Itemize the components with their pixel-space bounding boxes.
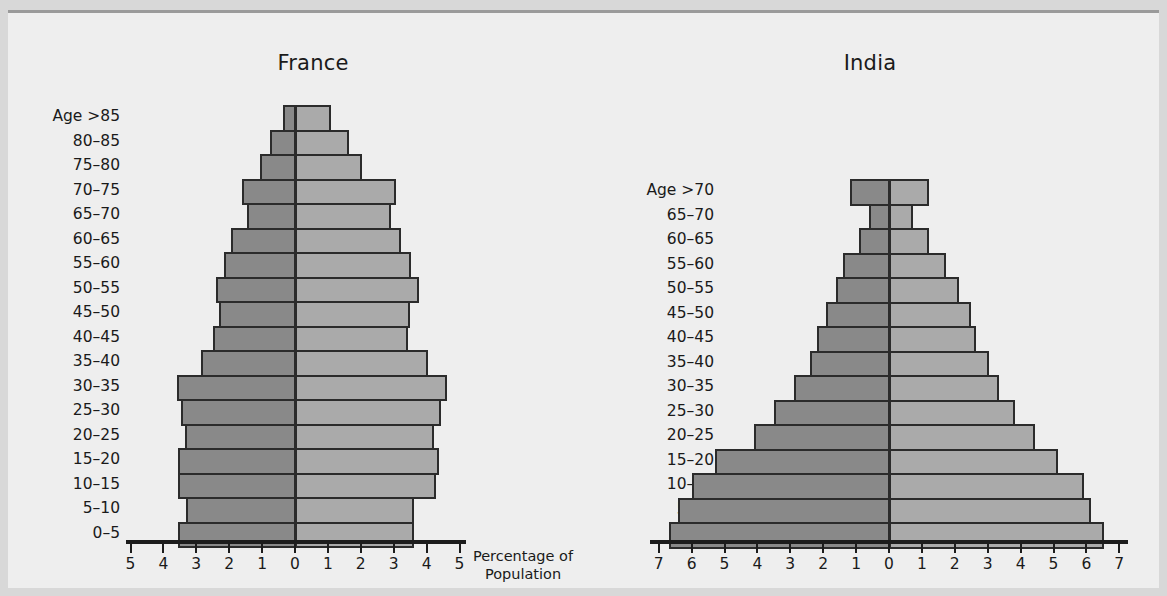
x-axis-tick-label: 4 [1011,557,1031,573]
axis-baseline [126,540,466,544]
age-band-label: 55–60 [528,257,714,273]
age-band-label: 50–55 [528,281,714,297]
x-axis-tick [426,544,428,553]
bar-female [295,130,349,157]
x-axis-tick-label: 5 [1044,557,1064,573]
age-band-label: 20–25 [528,428,714,444]
x-axis-tick-label: 3 [780,557,800,573]
x-axis-tick [228,544,230,553]
bar-female [889,449,1058,476]
age-band-label: 5–10 [8,501,120,517]
age-band-label: 20–25 [8,428,120,444]
bar-female [295,448,439,475]
bar-female [295,473,436,500]
age-band-label: 0–5 [8,526,120,542]
bar-male [859,228,890,255]
age-band-label: 10–15 [528,477,714,493]
bar-male [794,375,890,402]
bar-female [295,497,414,524]
chart-panel-india: India Age >7065–7060–6555–6050–5545–5040… [528,13,1159,588]
age-band-label: 35–40 [8,354,120,370]
x-axis-tick-label: 7 [649,557,669,573]
x-axis-tick [195,544,197,553]
bar-female [295,105,331,132]
bar-male [186,497,296,524]
bar-male [247,203,296,230]
age-band-label: 10–15 [8,477,120,493]
bar-female [889,424,1035,451]
x-axis-tick [162,544,164,553]
x-axis-tick [327,544,329,553]
bar-female [889,179,929,206]
bar-female [889,473,1084,500]
age-band-label: Age >85 [8,109,120,125]
x-axis-tick [756,544,758,553]
x-axis-tick [921,544,923,553]
bar-female [889,351,989,378]
bar-male [869,204,890,231]
bar-male [774,400,890,427]
age-band-label: 60–65 [8,232,120,248]
x-axis-tick-label: 4 [747,557,767,573]
bar-female [295,350,428,377]
bar-female [889,375,999,402]
age-band-label: 70–75 [8,183,120,199]
chart-panel-france: France Age >8580–8575–8070–7565–7060–655… [8,13,528,588]
bar-male [178,473,296,500]
age-band-label: 65–70 [528,208,714,224]
x-axis-tick-label: 3 [978,557,998,573]
x-axis-tick [1020,544,1022,553]
age-band-label: 15–20 [528,453,714,469]
x-axis-tick [130,544,132,553]
bar-male [850,179,890,206]
x-axis-tick-label: 1 [912,557,932,573]
bar-male [270,130,296,157]
bar-male [836,277,890,304]
bar-male [219,301,296,328]
bar-male [224,252,296,279]
bar-male [754,424,890,451]
x-axis-tick-label: 0 [879,557,899,573]
age-band-label: Age >70 [528,183,714,199]
bar-male [216,277,296,304]
x-axis-tick [789,544,791,553]
bar-male [678,498,890,525]
bar-female [889,400,1015,427]
x-axis-tick [691,544,693,553]
bar-female [889,277,959,304]
age-band-label: 15–20 [8,452,120,468]
bar-female [889,228,929,255]
x-axis-tick [294,544,296,553]
bar-male [213,326,296,353]
population-pyramid-figure: France Age >8580–8575–8070–7565–7060–655… [8,10,1159,588]
bar-female [889,498,1091,525]
age-band-label: 30–35 [528,379,714,395]
bar-female [295,522,414,549]
x-axis-tick-label: 2 [945,557,965,573]
x-axis-tick [360,544,362,553]
bar-male [242,179,296,206]
bar-male [181,399,296,426]
bar-female [295,179,396,206]
x-axis-tick-label: 5 [715,557,735,573]
chart-title-india: India [740,51,1000,75]
x-axis-tick-label: 2 [813,557,833,573]
x-axis-tick-label: 1 [318,557,338,573]
bar-female [295,399,441,426]
bar-male [692,473,890,500]
age-band-label: 55–60 [8,256,120,272]
x-axis-tick [261,544,263,553]
age-band-label: 50–55 [8,281,120,297]
age-band-label: 30–35 [8,379,120,395]
bar-male [715,449,890,476]
bar-female [889,302,971,329]
x-axis-tick-label: 0 [285,557,305,573]
x-axis-tick-label: 7 [1109,557,1129,573]
age-band-label: 35–40 [528,355,714,371]
age-band-label: 60–65 [528,232,714,248]
age-band-label: 40–45 [8,330,120,346]
x-axis-tick [1085,544,1087,553]
x-axis-tick [888,544,890,553]
x-axis-tick [724,544,726,553]
x-axis-tick-label: 5 [121,557,141,573]
